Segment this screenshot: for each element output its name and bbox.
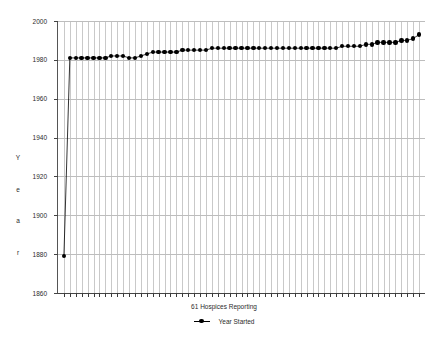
x-axis-tick-mark bbox=[271, 293, 272, 297]
x-axis-tick-mark bbox=[366, 293, 367, 297]
data-point bbox=[381, 40, 385, 44]
gridline-horizontal bbox=[58, 21, 425, 22]
gridline-vertical bbox=[242, 21, 243, 293]
data-point bbox=[62, 254, 66, 258]
data-point bbox=[293, 46, 297, 50]
data-point bbox=[79, 56, 83, 60]
x-axis-label: 61 Hospices Reporting bbox=[0, 303, 448, 310]
gridline-vertical bbox=[342, 21, 343, 293]
x-axis-tick-mark bbox=[230, 293, 231, 297]
data-point bbox=[192, 48, 196, 52]
gridline-vertical bbox=[111, 21, 112, 293]
x-axis-tick-mark bbox=[413, 293, 414, 297]
gridline-vertical bbox=[230, 21, 231, 293]
x-axis-tick-mark bbox=[135, 293, 136, 297]
data-point bbox=[156, 50, 160, 54]
data-point bbox=[216, 46, 220, 50]
y-axis-tick-label: 1980 bbox=[33, 56, 47, 63]
data-point bbox=[222, 46, 226, 50]
gridline-vertical bbox=[129, 21, 130, 293]
gridline-horizontal bbox=[58, 99, 425, 100]
data-point bbox=[145, 52, 149, 56]
y-axis-tick-label: 1940 bbox=[33, 134, 47, 141]
x-axis-tick-mark bbox=[401, 293, 402, 297]
y-axis-tick-mark bbox=[54, 99, 58, 100]
x-axis-tick-mark bbox=[324, 293, 325, 297]
x-axis-tick-mark bbox=[206, 293, 207, 297]
gridline-vertical bbox=[206, 21, 207, 293]
x-axis-tick-mark bbox=[307, 293, 308, 297]
x-axis-tick-mark bbox=[153, 293, 154, 297]
data-point bbox=[358, 44, 362, 48]
data-point bbox=[257, 46, 261, 50]
x-axis-tick-mark bbox=[265, 293, 266, 297]
data-point bbox=[251, 46, 255, 50]
x-axis-tick-mark bbox=[259, 293, 260, 297]
x-axis-tick-mark bbox=[348, 293, 349, 297]
data-point bbox=[233, 46, 237, 50]
y-axis-tick-label: 1960 bbox=[33, 95, 47, 102]
x-axis-tick-mark bbox=[318, 293, 319, 297]
data-point bbox=[269, 46, 273, 50]
x-axis-tick-mark bbox=[277, 293, 278, 297]
chart-legend: Year Started bbox=[0, 318, 448, 325]
y-axis-tick-mark bbox=[54, 215, 58, 216]
x-axis-tick-mark bbox=[295, 293, 296, 297]
gridline-vertical bbox=[153, 21, 154, 293]
gridline-vertical bbox=[324, 21, 325, 293]
gridline-vertical bbox=[384, 21, 385, 293]
gridline-vertical bbox=[76, 21, 77, 293]
x-axis-tick-mark bbox=[360, 293, 361, 297]
gridline-vertical bbox=[176, 21, 177, 293]
data-point bbox=[417, 32, 421, 36]
data-point bbox=[168, 50, 172, 54]
gridline-vertical bbox=[212, 21, 213, 293]
data-point bbox=[346, 44, 350, 48]
y-axis-tick-mark bbox=[54, 60, 58, 61]
gridline-vertical bbox=[336, 21, 337, 293]
x-axis-tick-mark bbox=[212, 293, 213, 297]
gridline-vertical bbox=[419, 21, 420, 293]
data-point bbox=[399, 38, 403, 42]
data-point bbox=[97, 56, 101, 60]
x-axis-tick-mark bbox=[218, 293, 219, 297]
gridline-vertical bbox=[372, 21, 373, 293]
x-axis-tick-mark bbox=[200, 293, 201, 297]
x-axis-tick-mark bbox=[70, 293, 71, 297]
data-point bbox=[322, 46, 326, 50]
data-point bbox=[115, 54, 119, 58]
y-axis-tick-mark bbox=[54, 254, 58, 255]
data-point bbox=[393, 40, 397, 44]
gridline-vertical bbox=[165, 21, 166, 293]
gridline-horizontal bbox=[58, 138, 425, 139]
x-axis-tick-mark bbox=[247, 293, 248, 297]
data-point bbox=[299, 46, 303, 50]
legend-marker-icon bbox=[194, 319, 210, 325]
data-point bbox=[186, 48, 190, 52]
x-axis-tick-mark bbox=[159, 293, 160, 297]
x-axis-tick-mark bbox=[389, 293, 390, 297]
x-axis-tick-mark bbox=[336, 293, 337, 297]
x-axis-tick-mark bbox=[354, 293, 355, 297]
data-point bbox=[304, 46, 308, 50]
gridline-vertical bbox=[236, 21, 237, 293]
gridline-vertical bbox=[307, 21, 308, 293]
x-axis-tick-mark bbox=[313, 293, 314, 297]
data-point bbox=[263, 46, 267, 50]
y-axis-tick-mark bbox=[54, 176, 58, 177]
data-point bbox=[411, 36, 415, 40]
data-point bbox=[227, 46, 231, 50]
gridline-vertical bbox=[277, 21, 278, 293]
gridline-horizontal bbox=[58, 254, 425, 255]
data-point bbox=[334, 46, 338, 50]
x-axis-tick-mark bbox=[129, 293, 130, 297]
data-point bbox=[275, 46, 279, 50]
x-axis-tick-mark bbox=[170, 293, 171, 297]
y-axis-tick-label: 2000 bbox=[33, 18, 47, 25]
gridline-vertical bbox=[88, 21, 89, 293]
data-point bbox=[387, 40, 391, 44]
gridline-vertical bbox=[117, 21, 118, 293]
x-axis-tick-mark bbox=[407, 293, 408, 297]
y-axis-tick-label: 1880 bbox=[33, 251, 47, 258]
data-point bbox=[103, 56, 107, 60]
